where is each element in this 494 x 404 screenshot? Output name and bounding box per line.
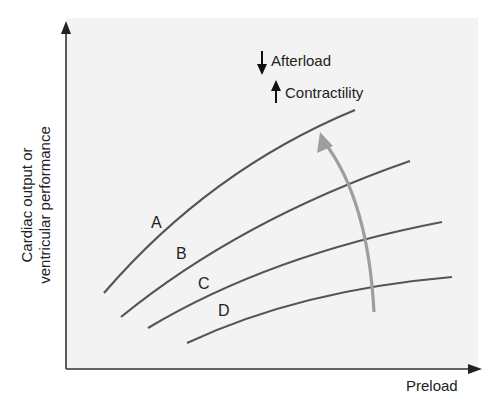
y-axis-label: Cardiac output or ventricular performanc…: [18, 126, 53, 284]
plot-area: [66, 18, 478, 369]
contractility-label: Contractility: [285, 84, 364, 101]
x-axis-label: Preload: [406, 377, 458, 394]
y-axis-label-line2: ventricular performance: [36, 126, 53, 284]
curve-label-c: C: [198, 275, 210, 292]
frank-starling-diagram: A B C D Afterload Contractility Preload …: [0, 0, 494, 404]
afterload-label: Afterload: [271, 52, 331, 69]
curve-label-b: B: [176, 245, 187, 262]
curve-label-a: A: [151, 214, 162, 231]
curve-label-d: D: [218, 302, 230, 319]
contractility-annotation: Contractility: [271, 80, 364, 103]
y-axis-label-line1: Cardiac output or: [18, 147, 35, 262]
